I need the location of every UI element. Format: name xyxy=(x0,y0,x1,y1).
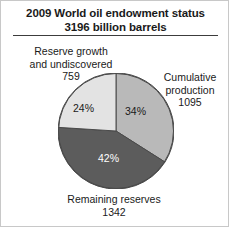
pie-label-cumulative-line-1: Cumulative xyxy=(164,71,217,83)
pie-label-cumulative-value: 1095 xyxy=(153,96,227,109)
pie-label-reserve-growth-line-2: and undiscovered xyxy=(30,58,113,70)
pie-label-cumulative-production: Cumulative production 1095 xyxy=(153,71,227,109)
title-divider xyxy=(13,35,218,36)
pie-label-remaining-value: 1342 xyxy=(39,206,189,219)
chart-title-line-2: 3196 billion barrels xyxy=(1,20,229,34)
pie-label-cumulative-line-2: production xyxy=(165,84,214,96)
pie-slice-percent-cumulative-production: 34% xyxy=(125,105,146,117)
chart-title: 2009 World oil endowment status 3196 bil… xyxy=(1,6,229,34)
pie-label-reserve-growth: Reserve growth and undiscovered 759 xyxy=(7,45,135,83)
pie-label-reserve-growth-value: 759 xyxy=(7,70,135,83)
pie-slice-percent-reserve-growth: 24% xyxy=(73,102,94,114)
chart-title-line-1: 2009 World oil endowment status xyxy=(1,6,229,20)
pie-chart-figure: 2009 World oil endowment status 3196 bil… xyxy=(0,0,229,227)
pie-label-remaining-line-1: Remaining reserves xyxy=(67,193,160,205)
pie-label-remaining-reserves: Remaining reserves 1342 xyxy=(39,193,189,218)
pie-label-reserve-growth-line-1: Reserve growth xyxy=(34,45,108,57)
pie-slice-percent-remaining-reserves: 42% xyxy=(98,152,119,164)
